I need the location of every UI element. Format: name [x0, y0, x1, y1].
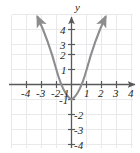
plot-canvas: [0, 0, 140, 153]
x-tick-label-neg4: -4: [21, 88, 30, 99]
y-tick-label-neg1: -1: [59, 95, 68, 106]
y-tick-label-neg2: -2: [74, 110, 83, 121]
y-tick-label-neg3: -3: [74, 125, 83, 136]
y-tick-label-1: 1: [61, 65, 67, 76]
parabola-graph-figure: y -4 -3 -2 -1 1 2 3 4 4 3 2 1 -1 -2 -3 -…: [0, 0, 140, 153]
x-tick-label-neg3: -3: [36, 88, 45, 99]
x-tick-label-4: 4: [128, 88, 134, 99]
x-tick-label-1: 1: [84, 88, 90, 99]
y-axis-label: y: [75, 2, 80, 13]
y-tick-label-neg4: -4: [74, 140, 83, 151]
y-tick-label-4: 4: [60, 25, 66, 36]
x-tick-label-3: 3: [113, 88, 119, 99]
x-tick-label-2: 2: [98, 88, 104, 99]
y-tick-label-2: 2: [60, 50, 66, 61]
